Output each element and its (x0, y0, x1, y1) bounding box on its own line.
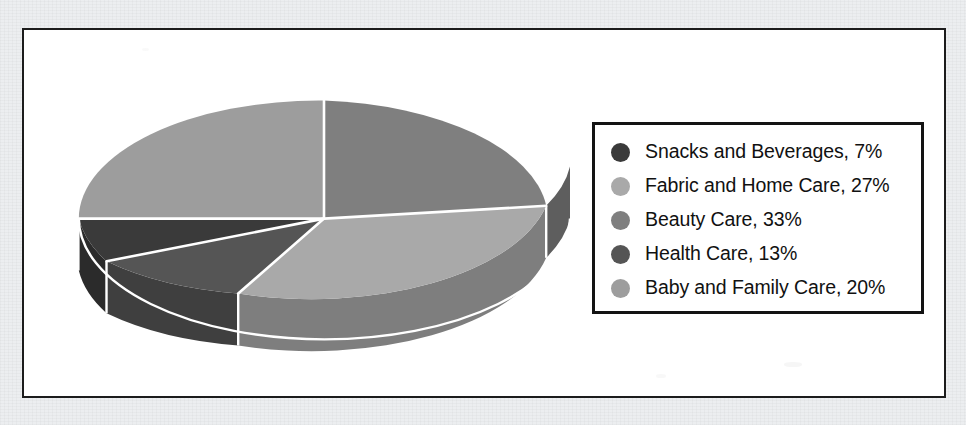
pie-slice-beauty-care (324, 101, 546, 219)
chart-frame: Snacks and Beverages, 7% Fabric and Home… (22, 28, 946, 398)
legend-item-label: Snacks and Beverages, 7% (645, 142, 882, 162)
filled-circle-marker (611, 143, 630, 162)
legend-item-label: Health Care, 13% (645, 244, 797, 264)
scan-speck (656, 374, 666, 378)
legend-item-label: Beauty Care, 33% (645, 210, 802, 230)
legend-item-label: Baby and Family Care, 20% (645, 278, 885, 298)
pie-chart (30, 32, 610, 394)
legend-item-health-care[interactable]: Health Care, 13% (611, 237, 921, 271)
chart-legend: Snacks and Beverages, 7% Fabric and Home… (592, 122, 924, 314)
filled-circle-marker (611, 211, 630, 230)
filled-circle-marker (611, 279, 630, 298)
legend-item-baby-and-family-care[interactable]: Baby and Family Care, 20% (611, 271, 921, 305)
legend-item-fabric-and-home-care[interactable]: Fabric and Home Care, 27% (611, 169, 921, 203)
pie-slice-baby-and-family-care (79, 101, 324, 219)
pie-wall-beauty-care (546, 167, 570, 258)
legend-item-label: Fabric and Home Care, 27% (645, 176, 890, 196)
filled-circle-marker (611, 245, 630, 264)
legend-item-snacks-and-beverages[interactable]: Snacks and Beverages, 7% (611, 135, 921, 169)
scan-speck (784, 362, 802, 367)
scan-speck (142, 48, 149, 51)
filled-circle-marker (611, 177, 630, 196)
plot-area: Snacks and Beverages, 7% Fabric and Home… (24, 30, 944, 396)
legend-item-beauty-care[interactable]: Beauty Care, 33% (611, 203, 921, 237)
